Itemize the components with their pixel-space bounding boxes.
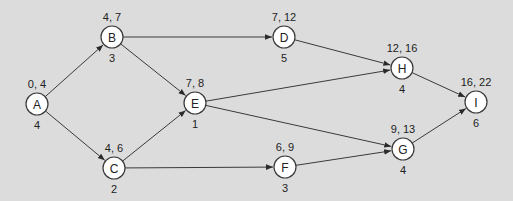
edge-b-e: [121, 44, 186, 96]
node-duration-label: 1: [192, 118, 198, 130]
node-times-label: 7, 8: [186, 77, 204, 89]
node-label: D: [280, 31, 289, 45]
edge-a-c: [45, 111, 104, 160]
node-h: 12, 16H4: [387, 42, 418, 95]
node-a: 0, 4A4: [26, 78, 48, 131]
node-duration-label: 4: [400, 164, 406, 176]
node-duration-label: 3: [282, 182, 288, 194]
node-f: 6, 9F3: [274, 141, 296, 194]
node-times-label: 6, 9: [276, 141, 294, 153]
edge-c-f: [125, 167, 273, 168]
node-times-label: 0, 4: [28, 78, 46, 90]
node-duration-label: 6: [473, 117, 479, 129]
node-label: E: [191, 97, 199, 111]
node-label: C: [110, 162, 119, 176]
edge-g-i: [412, 108, 466, 143]
network-diagram: 0, 4A44, 7B34, 6C27, 12D57, 8E16, 9F312,…: [0, 0, 513, 201]
edge-f-g: [296, 151, 391, 166]
node-duration-label: 4: [399, 83, 405, 95]
node-label: H: [398, 62, 407, 76]
node-times-label: 4, 7: [103, 11, 121, 23]
node-duration-label: 5: [281, 52, 287, 64]
edge-h-i: [412, 73, 465, 97]
node-d: 7, 12D5: [272, 11, 296, 64]
node-times-label: 12, 16: [387, 42, 418, 54]
node-duration-label: 4: [34, 119, 40, 131]
node-label: B: [108, 31, 116, 45]
edge-e-h: [206, 70, 390, 101]
node-duration-label: 2: [111, 183, 117, 195]
edge-c-e: [123, 111, 186, 162]
node-duration-label: 3: [109, 52, 115, 64]
node-times-label: 16, 22: [461, 76, 492, 88]
node-times-label: 9, 13: [391, 123, 415, 135]
node-label: F: [281, 161, 288, 175]
node-label: G: [398, 143, 407, 157]
node-b: 4, 7B3: [101, 11, 123, 64]
node-e: 7, 8E1: [184, 77, 206, 130]
node-label: I: [474, 96, 477, 110]
edge-a-b: [45, 45, 103, 97]
node-g: 9, 13G4: [391, 123, 415, 176]
edge-e-g: [206, 105, 392, 146]
node-times-label: 4, 6: [105, 142, 123, 154]
node-i: 16, 22I6: [461, 76, 492, 129]
edge-d-h: [295, 40, 391, 65]
node-times-label: 7, 12: [272, 11, 296, 23]
node-c: 4, 6C2: [103, 142, 125, 195]
node-label: A: [33, 98, 41, 112]
